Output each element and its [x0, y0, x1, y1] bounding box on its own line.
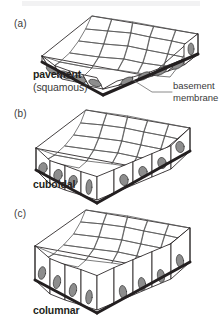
panel-pavement: (a) — [0, 0, 224, 104]
label-columnar: columnar — [33, 304, 79, 316]
columnar-diagram — [0, 204, 224, 318]
epithelium-figure: (a) — [0, 0, 224, 318]
panel-cuboidal: (b) — [0, 104, 224, 204]
panel-columnar: (c) — [0, 204, 224, 318]
annotation-line-1: basement — [173, 80, 218, 92]
label-cuboidal: cuboidal — [33, 178, 75, 190]
annotation-basement-membrane: basement membrane — [173, 80, 218, 103]
label-pavement: pavement — [33, 68, 81, 80]
annotation-line-2: membrane — [173, 92, 218, 104]
label-squamous: (squamous) — [33, 81, 87, 93]
basement-membrane-leader — [133, 80, 172, 92]
